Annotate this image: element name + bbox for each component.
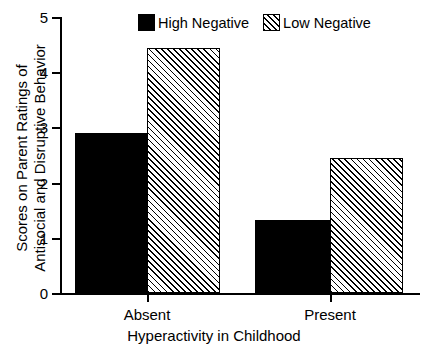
- bar-absent-low-negative: [147, 48, 220, 293]
- x-tick-absent: [147, 294, 149, 302]
- y-tick-4: [52, 72, 60, 74]
- y-tick-5: [52, 17, 60, 19]
- x-tick-label-absent: Absent: [87, 306, 207, 323]
- x-tick-label-present: Present: [270, 306, 390, 323]
- bar-chart-figure: High Negative Low Negative 5 4 3 2 1 0 A…: [0, 0, 428, 352]
- x-axis-title: Hyperactivity in Childhood: [0, 327, 428, 344]
- bar-present-low-negative: [330, 158, 403, 293]
- y-tick-3: [52, 127, 60, 129]
- y-tick-0: [52, 293, 60, 295]
- plot-area: [60, 17, 420, 293]
- y-axis-title: Scores on Parent Ratings of Antisocial a…: [13, 13, 49, 303]
- x-tick-present: [330, 294, 332, 302]
- y-axis-title-line-2: Antisocial and Disruptive Behavior: [31, 13, 49, 303]
- x-axis-line: [60, 293, 420, 295]
- bar-absent-high-negative: [75, 133, 147, 293]
- y-axis-title-line-1: Scores on Parent Ratings of: [13, 13, 31, 303]
- y-tick-1: [52, 238, 60, 240]
- y-tick-2: [52, 183, 60, 185]
- bar-present-high-negative: [255, 220, 330, 293]
